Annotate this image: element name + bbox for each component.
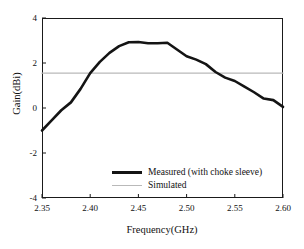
y-tick-label-0: 4 xyxy=(11,14,37,23)
x-axis-title: Frequency(GHz) xyxy=(82,224,242,235)
gain-vs-frequency-figure: 420-2-4 2.352.402.452.502.552.60 Gain(dB… xyxy=(0,0,304,249)
y-tick-label-3: -2 xyxy=(11,149,37,158)
legend-swatch-measured xyxy=(112,168,142,178)
x-tick-label-1: 2.40 xyxy=(73,204,107,213)
x-tick-label-0: 2.35 xyxy=(25,204,59,213)
x-tick-label-2: 2.45 xyxy=(121,204,155,213)
legend-item-simulated: Simulated xyxy=(112,179,282,192)
x-tick-label-5: 2.60 xyxy=(266,204,300,213)
x-tick-label-3: 2.50 xyxy=(170,204,204,213)
legend-label-simulated: Simulated xyxy=(148,180,187,191)
series-layer xyxy=(42,42,283,130)
legend-swatch-simulated xyxy=(112,181,142,191)
chart-legend: Measured (with choke sleeve) Simulated xyxy=(112,166,282,192)
legend-label-measured: Measured (with choke sleeve) xyxy=(148,167,262,178)
y-tick-label-4: -4 xyxy=(11,194,37,203)
series-line-measured xyxy=(42,42,283,130)
x-tick-label-4: 2.55 xyxy=(218,204,252,213)
legend-item-measured: Measured (with choke sleeve) xyxy=(112,166,282,179)
y-axis-title: Gain(dBi) xyxy=(11,54,22,134)
